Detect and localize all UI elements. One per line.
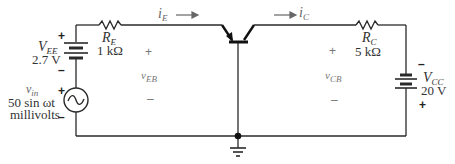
vcb-minus-sign: – <box>331 94 338 106</box>
ground-icon <box>230 148 246 156</box>
vee-value: 2.7 V <box>32 53 61 66</box>
battery-vee-symbol <box>64 43 88 58</box>
re-value: 1 kΩ <box>97 44 123 57</box>
ie-sub: E <box>162 13 168 23</box>
ac-source-symbol <box>64 88 88 112</box>
rc-name: R <box>362 30 371 45</box>
vin-unit: millivolts <box>10 108 60 121</box>
veb-minus-sign: – <box>147 93 154 105</box>
vee-plus-sign: + <box>58 30 65 42</box>
junction-dot <box>235 133 242 140</box>
resistor-re-symbol <box>99 21 121 29</box>
ie-label: iE <box>158 7 167 23</box>
veb-sub: EB <box>146 74 157 84</box>
battery-vcc-symbol <box>395 75 417 88</box>
veb-plus-sign: + <box>145 46 152 58</box>
arrow-right-icon <box>290 12 296 18</box>
resistor-rc-symbol <box>356 21 378 29</box>
vcc-value: 20 V <box>421 84 446 97</box>
rc-value: 5 kΩ <box>355 45 381 58</box>
arrow-right-icon <box>192 12 198 18</box>
circuit-schematic <box>0 0 455 164</box>
veb-label: vEB <box>141 70 157 84</box>
vin-minus-sign: – <box>58 111 65 123</box>
vin-plus-sign: + <box>58 85 65 97</box>
vcb-sub: CB <box>330 74 342 84</box>
ic-sub: C <box>303 12 309 22</box>
pnp-transistor-symbol <box>222 25 254 42</box>
vcc-minus-sign: – <box>418 58 425 70</box>
vcc-plus-sign: + <box>419 99 426 111</box>
vcb-label: vCB <box>325 70 341 84</box>
vee-minus-sign: – <box>58 64 65 76</box>
ic-label: iC <box>299 6 309 22</box>
vcb-plus-sign: + <box>329 45 336 57</box>
